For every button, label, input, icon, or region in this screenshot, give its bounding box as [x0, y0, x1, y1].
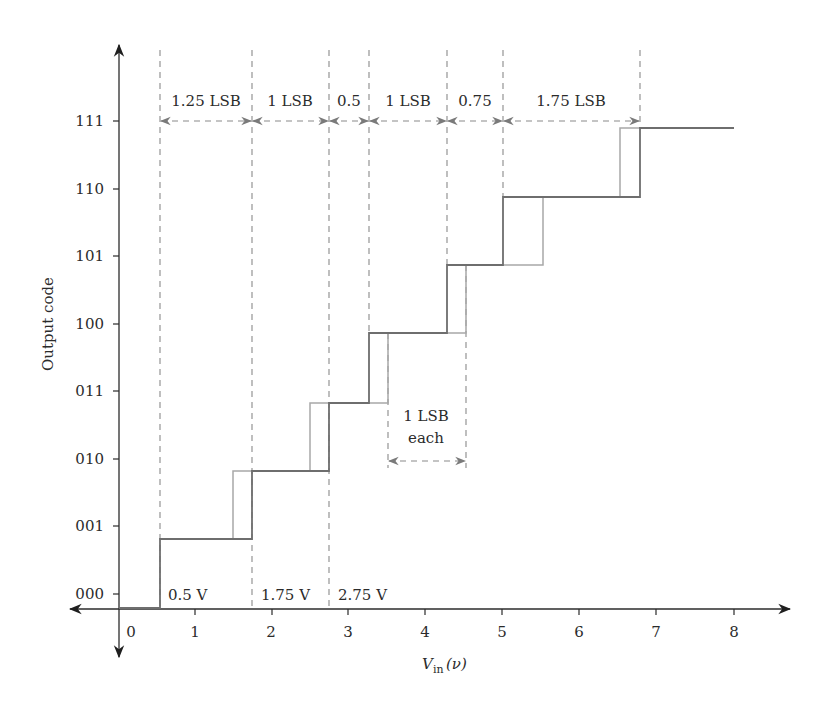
- x-tick-label: 7: [651, 623, 661, 641]
- x-axis-title-sub: in: [433, 663, 444, 676]
- x-tick-label: 5: [497, 623, 507, 641]
- y-ticks: [113, 121, 119, 594]
- step-width-label: 1.25 LSB: [171, 92, 240, 110]
- y-tick-label: 000: [75, 585, 104, 603]
- x-axis-title-unit: (ν): [446, 655, 467, 673]
- y-tick-label: 001: [75, 517, 104, 535]
- lsb-each-label-line1: 1 LSB: [403, 407, 449, 425]
- step-width-label: 0.75: [458, 92, 491, 110]
- x-tick-label: 1: [190, 623, 200, 641]
- y-tick-label: 010: [75, 450, 104, 468]
- x-tick-label: 2: [266, 623, 276, 641]
- voltage-label-2-75: 2.75 V: [338, 586, 388, 604]
- y-axis-title: Output code: [39, 277, 57, 371]
- x-tick-label: 3: [343, 623, 353, 641]
- lsb-each-label-line2: each: [408, 429, 444, 447]
- y-tick-label: 101: [75, 247, 104, 265]
- y-tick-label: 100: [75, 315, 104, 333]
- voltage-label-1-75: 1.75 V: [261, 586, 311, 604]
- voltage-label-0-5: 0.5 V: [168, 586, 209, 604]
- x-tick-label: 8: [729, 623, 739, 641]
- step-width-label: 1 LSB: [385, 92, 431, 110]
- x-ticks: [195, 609, 734, 615]
- y-tick-label: 111: [75, 112, 104, 130]
- y-tick-label: 011: [75, 382, 104, 400]
- x-tick-label: 4: [420, 623, 430, 641]
- axes: 0 1 2 3 4 5 6 7 8 111 110 101 100 011 01…: [39, 45, 790, 676]
- step-width-label: 1.75 LSB: [536, 92, 605, 110]
- guide-lines: [160, 50, 640, 609]
- x-tick-label: 0: [126, 623, 136, 641]
- step-width-label: 1 LSB: [267, 92, 313, 110]
- adc-transfer-diagram: 0 1 2 3 4 5 6 7 8 111 110 101 100 011 01…: [0, 0, 834, 711]
- step-width-label: 0.5: [337, 92, 361, 110]
- step-width-arrows: [161, 121, 639, 461]
- actual-staircase: [119, 128, 734, 608]
- x-axis-title: V in (ν): [422, 655, 467, 676]
- x-tick-label: 6: [574, 623, 584, 641]
- y-tick-label: 110: [75, 180, 104, 198]
